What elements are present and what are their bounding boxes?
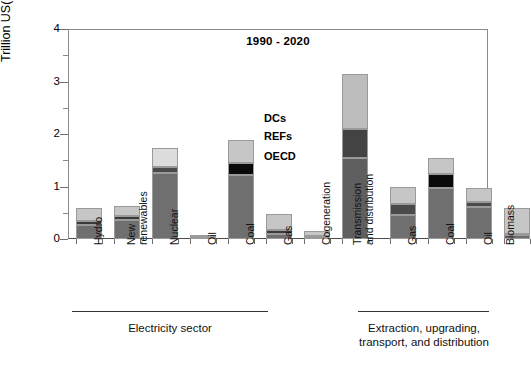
x-label-transmission-line2: and distribution xyxy=(364,174,375,245)
y-tick-2-5 xyxy=(63,108,68,109)
x-label-new-renewables-line2: renewables xyxy=(138,191,149,245)
bar-gas-extraction-refs xyxy=(390,204,416,215)
x-tick-8 xyxy=(228,239,229,244)
y-tick-3-5 xyxy=(63,55,68,56)
legend-label-oecd: OECD xyxy=(264,150,296,162)
y-label-2: 2 xyxy=(34,128,60,140)
x-tick-0 xyxy=(76,239,77,244)
y-tick-0-5 xyxy=(63,213,68,214)
y-tick-4 xyxy=(60,29,68,30)
bar-coal-dcs xyxy=(228,140,254,164)
x-label-new-renewables-line1: New xyxy=(126,224,137,245)
x-label-nuclear: Nuclear xyxy=(169,209,180,245)
bar-nuclear-dcs xyxy=(152,148,178,167)
x-label-transmission-line1: Transmission xyxy=(352,183,363,245)
x-tick-16 xyxy=(390,239,391,244)
x-tick-4 xyxy=(152,239,153,244)
y-axis-title: Trillion US(1990)$ xyxy=(0,0,13,62)
x-tick-12 xyxy=(304,239,305,244)
y-tick-0 xyxy=(60,239,68,240)
group-caption-extraction-line1: Extraction, upgrading, xyxy=(340,322,508,336)
y-tick-2 xyxy=(60,134,68,135)
chart-title: 1990 - 2020 xyxy=(68,35,488,47)
y-tick-1-5 xyxy=(63,160,68,161)
x-tick-20 xyxy=(466,239,467,244)
bar-oil-extraction-dcs xyxy=(466,188,492,202)
group-rule-extraction xyxy=(358,311,489,312)
x-label-oil-extraction: Oil xyxy=(483,232,494,245)
x-tick-14 xyxy=(342,239,343,244)
group-caption-electricity: Electricity sector xyxy=(72,322,268,336)
group-rule-electricity xyxy=(72,311,268,312)
plot-area: 1990 - 2020 xyxy=(68,29,488,239)
legend-label-refs: REFs xyxy=(264,130,292,142)
legend-label-dcs: DCs xyxy=(264,112,286,124)
x-tick-2 xyxy=(114,239,115,244)
x-label-cogeneration: Cogeneration xyxy=(321,182,332,245)
x-tick-10 xyxy=(266,239,267,244)
x-tick-18 xyxy=(428,239,429,244)
bar-transmission-dcs xyxy=(342,74,368,129)
bar-oil-extraction-refs xyxy=(466,202,492,207)
y-label-4: 4 xyxy=(34,23,60,35)
y-tick-1 xyxy=(60,187,68,188)
x-label-coal: Coal xyxy=(245,223,256,245)
y-label-0: 0 xyxy=(34,233,60,245)
x-label-gas: Gas xyxy=(283,226,294,245)
bar-gas-extraction-dcs xyxy=(390,187,416,204)
bar-coal-refs xyxy=(228,163,254,175)
x-label-hydro: Hydro xyxy=(93,217,104,245)
x-label-coal-extraction: Coal xyxy=(445,223,456,245)
bar-coal-extraction-refs xyxy=(428,174,454,188)
y-label-3: 3 xyxy=(34,76,60,88)
bar-nuclear-refs xyxy=(152,167,178,173)
y-tick-3 xyxy=(60,82,68,83)
bar-coal-extraction-dcs xyxy=(428,158,454,174)
x-tick-6 xyxy=(190,239,191,244)
bar-transmission-refs xyxy=(342,129,368,158)
y-axis-labels: 4 3 2 1 0 xyxy=(30,29,60,239)
y-label-1: 1 xyxy=(34,181,60,193)
x-label-oil: Oil xyxy=(207,232,218,245)
x-label-gas-extraction: Gas xyxy=(407,226,418,245)
x-label-biomass: Biomass xyxy=(505,205,516,245)
group-caption-extraction-line2: transport, and distribution xyxy=(340,336,508,350)
